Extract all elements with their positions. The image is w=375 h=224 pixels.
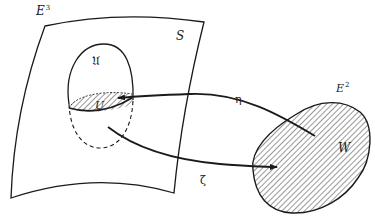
label-e2: E2: [336, 82, 350, 94]
region-w: [253, 103, 370, 213]
label-surface-s: S: [176, 30, 184, 42]
map-zeta-arrow: [108, 127, 277, 167]
label-map-eta: η: [235, 94, 242, 105]
label-region-w: W: [338, 142, 350, 154]
label-patch-u: U: [95, 100, 104, 111]
surface-mapping-diagram: [0, 0, 375, 224]
label-map-zeta: ζ: [200, 175, 206, 186]
label-neighborhood: 𝔘: [92, 55, 100, 67]
label-e3: E3: [36, 5, 50, 17]
